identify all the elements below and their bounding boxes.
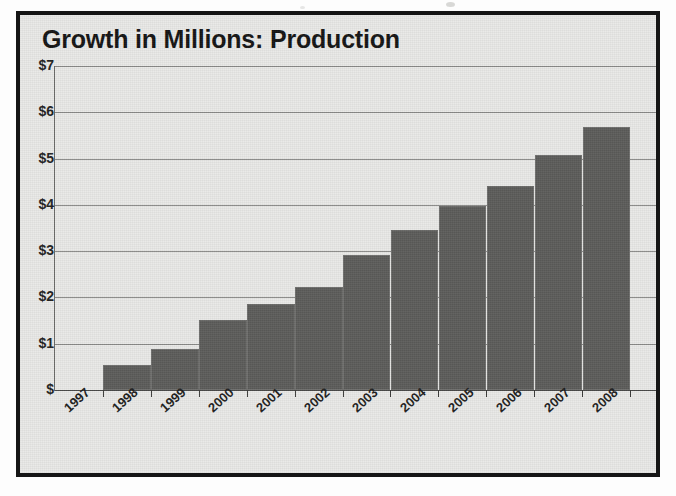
chart-frame: Growth in Millions: Production $$1$2$3$4… [16,11,660,477]
x-tick-2008 [630,390,631,397]
x-tick-1998 [151,390,152,397]
bar-2001 [247,304,295,390]
y-tick-label: $3 [20,242,54,258]
bar-1999 [151,349,199,390]
y-tick-label: $4 [20,196,54,212]
scan-speck [446,2,455,7]
chart-title: Growth in Millions: Production [42,25,400,54]
y-tick-label: $2 [20,288,54,304]
y-tick-label: $6 [20,103,54,119]
scan-speck [300,6,305,9]
bar-2007 [535,155,583,390]
bar-2005 [439,206,487,390]
x-tick-2001 [295,390,296,397]
bar-2006 [487,186,535,390]
x-axis-labels: 1997199819992000200120022003200420052006… [54,66,656,186]
x-tick-2000 [247,390,248,397]
x-tick-2007 [582,390,583,397]
y-tick-label: $7 [20,57,54,73]
x-tick-2002 [343,390,344,397]
y-tick-label: $ [20,381,54,397]
x-tick-1999 [199,390,200,397]
x-tick-2003 [390,390,391,397]
y-tick-label: $5 [20,150,54,166]
x-tick-2006 [534,390,535,397]
bar-2002 [295,287,343,390]
x-tick-2005 [486,390,487,397]
x-tick-1997 [103,390,104,397]
bar-2000 [199,320,247,390]
bar-2004 [391,230,439,390]
y-axis-labels: $$1$2$3$4$5$6$7 [12,66,54,391]
y-tick-label: $1 [20,335,54,351]
bar-2003 [343,255,391,390]
x-tick-2004 [438,390,439,397]
chart-page: Growth in Millions: Production $$1$2$3$4… [0,0,676,496]
